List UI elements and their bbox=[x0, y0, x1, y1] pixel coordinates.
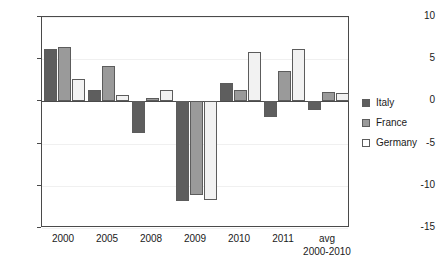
bar-france-avg bbox=[322, 92, 335, 101]
gridline bbox=[42, 228, 348, 229]
y-tick-mark bbox=[37, 185, 41, 186]
legend-item-france: France bbox=[362, 113, 417, 133]
bar-france-2008 bbox=[146, 98, 159, 101]
y-tick-label: 5 bbox=[429, 53, 435, 63]
bar-italy-avg bbox=[308, 101, 321, 109]
legend-item-italy: Italy bbox=[362, 93, 417, 113]
legend-label: Italy bbox=[376, 98, 394, 108]
bar-germany-2009 bbox=[204, 101, 217, 200]
x-tick-label: 2008 bbox=[140, 233, 162, 245]
bar-france-2000 bbox=[58, 47, 71, 101]
legend-swatch-icon bbox=[362, 99, 370, 107]
bar-group bbox=[306, 17, 350, 226]
x-tick-label: 2005 bbox=[96, 233, 118, 245]
bar-group bbox=[42, 17, 86, 226]
y-tick-label: -10 bbox=[421, 180, 435, 190]
bar-group bbox=[262, 17, 306, 226]
y-tick-label: 10 bbox=[424, 11, 435, 21]
bar-italy-2005 bbox=[88, 90, 101, 101]
plot-area bbox=[41, 16, 349, 227]
bar-germany-2010 bbox=[248, 52, 261, 102]
y-tick-mark bbox=[37, 16, 41, 17]
bar-germany-2000 bbox=[72, 79, 85, 101]
x-tick-label: 2009 bbox=[184, 233, 206, 245]
bar-france-2009 bbox=[190, 101, 203, 195]
bar-germany-2005 bbox=[116, 95, 129, 102]
y-tick-label: 0 bbox=[429, 95, 435, 105]
y-tick-label: -15 bbox=[421, 222, 435, 232]
y-tick-label: -5 bbox=[426, 138, 435, 148]
legend-swatch-icon bbox=[362, 139, 370, 147]
bar-germany-avg bbox=[336, 93, 349, 101]
bar-italy-2011 bbox=[264, 101, 277, 116]
bar-germany-2008 bbox=[160, 90, 173, 101]
x-tick-label: 2011 bbox=[272, 233, 294, 245]
legend-swatch-icon bbox=[362, 119, 370, 127]
y-tick-mark bbox=[37, 227, 41, 228]
bar-france-2005 bbox=[102, 66, 115, 101]
legend-label: France bbox=[376, 118, 407, 128]
bar-italy-2008 bbox=[132, 101, 145, 132]
bar-france-2010 bbox=[234, 90, 247, 101]
bar-group bbox=[130, 17, 174, 226]
bar-italy-2009 bbox=[176, 101, 189, 201]
legend-label: Germany bbox=[376, 138, 417, 148]
bar-germany-2011 bbox=[292, 49, 305, 101]
bar-italy-2010 bbox=[220, 83, 233, 102]
x-tick-sublabel: 2000-2010 bbox=[303, 246, 351, 258]
bar-france-2011 bbox=[278, 71, 291, 101]
bar-chart: ItalyFranceGermany 1050-5-10-15200020052… bbox=[0, 0, 441, 268]
legend-item-germany: Germany bbox=[362, 133, 417, 153]
y-tick-mark bbox=[37, 143, 41, 144]
x-tick-label: 2010 bbox=[228, 233, 250, 245]
y-tick-mark bbox=[37, 100, 41, 101]
bar-group bbox=[174, 17, 218, 226]
bar-group bbox=[86, 17, 130, 226]
bar-italy-2000 bbox=[44, 49, 57, 101]
x-tick-label: avg bbox=[319, 233, 335, 245]
bar-group bbox=[218, 17, 262, 226]
x-tick-label: 2000 bbox=[52, 233, 74, 245]
chart-legend: ItalyFranceGermany bbox=[362, 93, 417, 153]
y-tick-mark bbox=[37, 58, 41, 59]
